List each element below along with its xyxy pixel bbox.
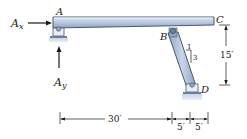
- label-point-b: B: [159, 31, 167, 42]
- horizontal-dimension: [60, 112, 208, 124]
- beam-diagram: Ax Ay A B C D 1 3 15′: [0, 0, 247, 139]
- reaction-ay-arrow: [57, 46, 62, 68]
- pin-b: [169, 28, 177, 37]
- reaction-ax-arrow: [28, 21, 52, 26]
- pin-support-a: [49, 27, 68, 42]
- slope-run-label: 3: [193, 54, 197, 62]
- dimension-5ft-2: 5′: [195, 122, 203, 132]
- label-point-d: D: [200, 84, 209, 95]
- strut-bd: [168, 32, 196, 88]
- label-point-a: A: [55, 6, 63, 17]
- dimension-5ft-1: 5′: [177, 122, 185, 132]
- dimension-30ft: 30′: [108, 114, 122, 124]
- slope-rise-label: 1: [187, 43, 191, 51]
- label-point-c: C: [216, 14, 224, 25]
- label-ax: Ax: [10, 17, 24, 31]
- pin-support-d: [182, 83, 202, 100]
- label-ay: Ay: [53, 76, 67, 90]
- dimension-15ft: 15′: [220, 50, 234, 60]
- beam-ac: [53, 17, 214, 28]
